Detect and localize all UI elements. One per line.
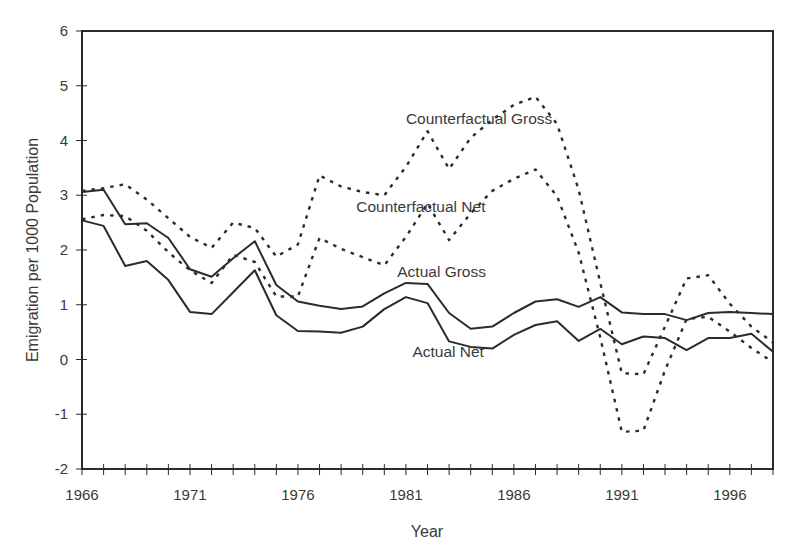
y-axis-title: Emigration per 1000 Population bbox=[24, 138, 41, 362]
y-tick-label: 3 bbox=[60, 186, 68, 203]
y-tick-label: 4 bbox=[60, 132, 68, 149]
label-counterfactual-gross: Counterfactual Gross bbox=[406, 110, 553, 127]
x-axis-title: Year bbox=[411, 523, 444, 540]
x-tick-label: 1976 bbox=[281, 486, 314, 503]
y-tick-label: -2 bbox=[55, 460, 68, 477]
x-tick-label: 1971 bbox=[173, 486, 206, 503]
series-line-counterfactual-gross bbox=[82, 97, 773, 375]
x-tick-label: 1981 bbox=[389, 486, 422, 503]
label-actual-net: Actual Net bbox=[412, 343, 484, 360]
series-labels: Counterfactual GrossCounterfactual NetAc… bbox=[356, 110, 552, 360]
label-counterfactual-net: Counterfactual Net bbox=[356, 198, 486, 215]
label-actual-gross: Actual Gross bbox=[397, 263, 486, 280]
x-tick-label: 1991 bbox=[605, 486, 638, 503]
y-tick-label: -1 bbox=[55, 405, 68, 422]
y-tick-label: 2 bbox=[60, 241, 68, 258]
plot-border bbox=[82, 31, 773, 469]
plot-frame bbox=[82, 31, 773, 469]
x-tick-label: 1986 bbox=[497, 486, 530, 503]
y-tick-label: 6 bbox=[60, 22, 68, 39]
x-tick-label: 1996 bbox=[713, 486, 746, 503]
x-tick-label: 1966 bbox=[65, 486, 98, 503]
y-tick-label: 0 bbox=[60, 351, 68, 368]
emigration-line-chart: -2-10123456 1966197119761981198619911996… bbox=[0, 0, 793, 553]
y-tick-label: 5 bbox=[60, 77, 68, 94]
y-tick-label: 1 bbox=[60, 296, 68, 313]
series-line-actual-net bbox=[82, 220, 773, 351]
